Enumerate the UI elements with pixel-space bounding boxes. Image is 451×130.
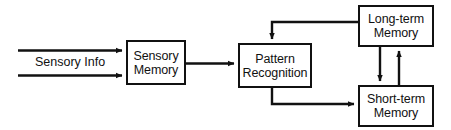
node-short-term-memory-line1: Short-term [367, 92, 425, 106]
node-pattern-recognition-line2: Recognition [243, 66, 308, 80]
edge-longterm-to-pattern-arrow [272, 22, 358, 39]
node-long-term-memory[interactable]: Long-term Memory [358, 5, 434, 47]
edge-pattern-to-shortterm-arrow [272, 88, 354, 104]
node-sensory-memory[interactable]: Sensory Memory [126, 40, 186, 85]
node-long-term-memory-line2: Memory [374, 26, 419, 40]
node-long-term-memory-line1: Long-term [368, 12, 424, 26]
node-short-term-memory[interactable]: Short-term Memory [358, 85, 434, 127]
edge-label-sensory-info: Sensory Info [33, 56, 107, 69]
memory-model-diagram: Sensory Info Sensory Memory Pattern Reco… [0, 0, 451, 130]
node-pattern-recognition-line1: Pattern [255, 52, 295, 66]
node-sensory-memory-line1: Sensory [133, 49, 178, 63]
node-sensory-memory-line2: Memory [134, 63, 179, 77]
node-pattern-recognition[interactable]: Pattern Recognition [238, 43, 312, 88]
node-short-term-memory-line2: Memory [374, 106, 419, 120]
